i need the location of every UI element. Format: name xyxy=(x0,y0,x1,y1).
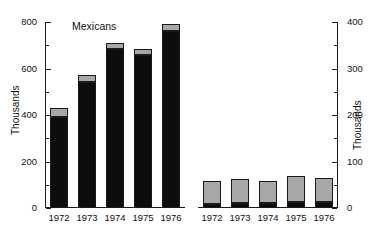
plot-area-all-others: 010020030040019721973197419751976 xyxy=(198,22,338,208)
y-tick-mexicans-0 xyxy=(46,208,51,209)
bar-segment-surreptitious-all-others-1973 xyxy=(231,203,248,208)
y-tick-all-others-100 xyxy=(332,162,337,163)
bar-segment-surreptitious-all-others-1974 xyxy=(259,203,276,208)
y-tick-mexicans-100 xyxy=(46,185,49,186)
x-tick-label-mexicans-1976: 1976 xyxy=(157,213,185,223)
bar-segment-surreptitious-all-others-1976 xyxy=(315,202,332,208)
bar-mexicans-1974 xyxy=(106,43,123,208)
y-tick-mexicans-500 xyxy=(46,92,49,93)
y-axis-label-right: Thousands xyxy=(352,101,363,150)
bar-segment-surreptitious-mexicans-1975 xyxy=(134,55,151,208)
bar-segment-surreptitious-all-others-1975 xyxy=(287,202,304,208)
x-tick-label-mexicans-1975: 1975 xyxy=(129,213,157,223)
y-tick-all-others-150 xyxy=(334,138,337,139)
y-tick-label-mexicans-200: 200 xyxy=(5,157,37,167)
bar-all-others-1972 xyxy=(203,181,220,208)
bar-mexicans-1973 xyxy=(78,75,95,208)
y-tick-label-mexicans-800: 800 xyxy=(5,17,37,27)
bar-mexicans-1976 xyxy=(162,24,179,208)
y-tick-label-mexicans-0: 0 xyxy=(5,203,37,213)
y-tick-label-all-others-300: 300 xyxy=(347,64,378,74)
y-tick-label-all-others-400: 400 xyxy=(347,17,378,27)
y-tick-all-others-350 xyxy=(334,45,337,46)
y-tick-mexicans-800 xyxy=(46,22,51,23)
y-tick-all-others-400 xyxy=(332,22,337,23)
bar-all-others-1976 xyxy=(315,178,332,208)
x-tick-label-mexicans-1973: 1973 xyxy=(73,213,101,223)
y-axis-line-right xyxy=(337,22,338,208)
y-tick-all-others-0 xyxy=(332,208,337,209)
bar-segment-all-other-all-others-1975 xyxy=(287,176,304,202)
bar-segment-all-other-mexicans-1975 xyxy=(134,49,151,55)
bar-segment-all-other-mexicans-1972 xyxy=(50,108,67,117)
bar-segment-surreptitious-all-others-1972 xyxy=(203,204,220,208)
bar-segment-all-other-mexicans-1974 xyxy=(106,43,123,49)
bar-segment-surreptitious-mexicans-1973 xyxy=(78,82,95,208)
plot-area-mexicans: 020040060080019721973197419751976 xyxy=(45,22,185,208)
bar-segment-all-other-mexicans-1976 xyxy=(162,24,179,31)
panel-mexicans: Mexicans Thousands 020040060080019721973… xyxy=(0,0,190,244)
y-tick-label-all-others-0: 0 xyxy=(347,203,378,213)
y-tick-all-others-250 xyxy=(334,92,337,93)
y-tick-all-others-50 xyxy=(334,185,337,186)
x-tick-label-all-others-1976: 1976 xyxy=(310,213,338,223)
y-tick-mexicans-700 xyxy=(46,45,49,46)
x-tick-label-mexicans-1974: 1974 xyxy=(101,213,129,223)
bar-mexicans-1975 xyxy=(134,49,151,208)
bar-segment-all-other-mexicans-1973 xyxy=(78,75,95,82)
y-tick-label-mexicans-400: 400 xyxy=(5,110,37,120)
y-tick-mexicans-600 xyxy=(46,69,51,70)
x-tick-label-all-others-1975: 1975 xyxy=(282,213,310,223)
bar-segment-all-other-all-others-1973 xyxy=(231,179,248,203)
y-tick-label-all-others-100: 100 xyxy=(347,157,378,167)
y-tick-all-others-300 xyxy=(332,69,337,70)
bar-segment-all-other-all-others-1974 xyxy=(259,181,276,204)
panel-all-others: 010020030040019721973197419751976 All ot… xyxy=(190,0,378,244)
bar-mexicans-1972 xyxy=(50,108,67,208)
chart-figure: Mexicans Thousands 020040060080019721973… xyxy=(0,0,378,244)
bar-segment-all-other-all-others-1976 xyxy=(315,178,332,202)
bar-segment-all-other-all-others-1972 xyxy=(203,181,220,204)
x-tick-label-all-others-1972: 1972 xyxy=(198,213,226,223)
x-tick-label-mexicans-1972: 1972 xyxy=(45,213,73,223)
x-tick-label-all-others-1973: 1973 xyxy=(226,213,254,223)
y-tick-mexicans-300 xyxy=(46,138,49,139)
x-tick-label-all-others-1974: 1974 xyxy=(254,213,282,223)
bar-all-others-1973 xyxy=(231,179,248,208)
y-tick-label-mexicans-600: 600 xyxy=(5,64,37,74)
bar-segment-surreptitious-mexicans-1972 xyxy=(50,117,67,208)
y-tick-all-others-200 xyxy=(332,115,337,116)
bar-segment-surreptitious-mexicans-1974 xyxy=(106,49,123,208)
bar-segment-surreptitious-mexicans-1976 xyxy=(162,31,179,208)
bar-all-others-1975 xyxy=(287,176,304,208)
bar-all-others-1974 xyxy=(259,181,276,208)
